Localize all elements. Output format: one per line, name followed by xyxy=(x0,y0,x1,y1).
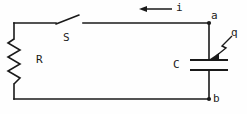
current-arrow xyxy=(139,6,172,12)
charge-label: q xyxy=(231,27,238,38)
top-branch-wires xyxy=(83,23,209,99)
resistor-zigzag xyxy=(8,39,20,84)
circuit-diagram-figure: R S C q i a b xyxy=(0,0,247,114)
capacitor-symbol xyxy=(190,60,228,70)
capacitor-label: C xyxy=(173,59,180,70)
charge-pointer-arrow xyxy=(210,36,232,60)
switch-symbol[interactable] xyxy=(56,15,79,24)
charge-pointer-head xyxy=(210,53,219,60)
switch-label: S xyxy=(63,32,70,43)
resistor-label: R xyxy=(36,54,43,65)
node-dot-b xyxy=(207,97,211,101)
resistor-symbol xyxy=(8,39,20,84)
charge-pointer-zigzag xyxy=(216,36,232,56)
current-label: i xyxy=(176,2,183,13)
node-b-label: b xyxy=(213,93,220,104)
node-a-label: a xyxy=(211,10,218,21)
switch-blade xyxy=(56,15,79,24)
current-arrow-head xyxy=(139,6,147,12)
left-branch-wires xyxy=(14,23,209,99)
